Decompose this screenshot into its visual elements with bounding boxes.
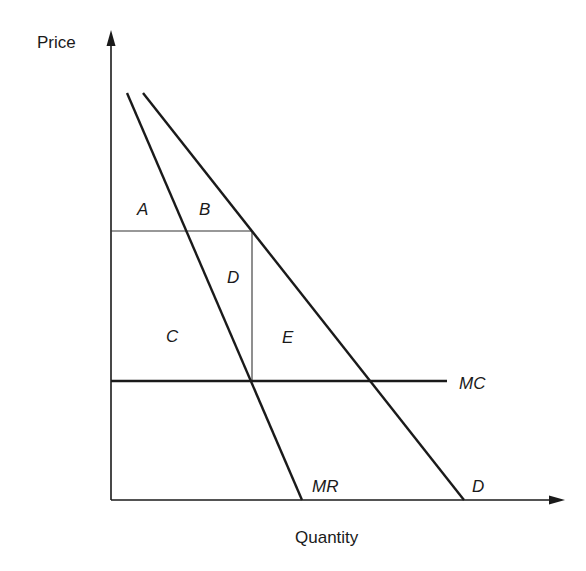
- demand-label: D: [472, 477, 484, 496]
- demand-curve: [143, 93, 464, 500]
- y-axis-label: Price: [37, 33, 76, 52]
- axes: [107, 30, 566, 505]
- x-axis-label: Quantity: [295, 528, 359, 547]
- region-c-label: C: [166, 327, 179, 346]
- mr-label: MR: [312, 477, 338, 496]
- x-axis-arrow-icon: [549, 496, 565, 505]
- region-a-label: A: [136, 200, 148, 219]
- y-axis-arrow-icon: [107, 30, 116, 46]
- region-b-label: B: [199, 200, 210, 219]
- mc-label: MC: [459, 374, 486, 393]
- monopoly-diagram: Price Quantity MC MR D A B D C E: [0, 0, 586, 571]
- region-d-label: D: [227, 268, 239, 287]
- mr-curve: [127, 93, 302, 500]
- region-e-label: E: [282, 328, 294, 347]
